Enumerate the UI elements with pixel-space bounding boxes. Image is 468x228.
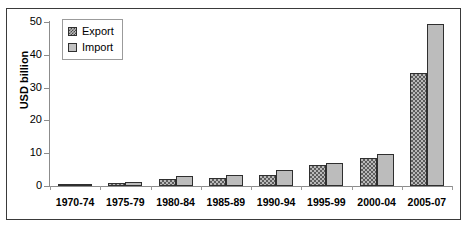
x-category-label: 1985-89 [201, 196, 251, 208]
y-tick-mark [44, 88, 49, 89]
x-tick-mark [402, 186, 403, 190]
bar-import [427, 24, 444, 186]
x-category-label: 1995-99 [301, 196, 351, 208]
legend-item-export: Export [68, 23, 114, 39]
bar-export [159, 179, 176, 186]
x-category-label: 2005-07 [402, 196, 452, 208]
bar-group [159, 22, 193, 186]
x-category-label: 1970-74 [50, 196, 100, 208]
bar-group [410, 22, 444, 186]
bar-import [326, 163, 343, 186]
x-tick-mark [251, 186, 252, 190]
chart-legend: Export Import [62, 19, 123, 60]
legend-label-export: Export [82, 25, 114, 37]
x-tick-mark [100, 186, 101, 190]
x-tick-mark [452, 186, 453, 190]
legend-item-import: Import [68, 39, 114, 55]
legend-label-import: Import [82, 41, 113, 53]
bar-export [410, 73, 427, 186]
bar-export [58, 184, 75, 187]
chart-figure: USD billion 01020304050 1970-741975-7919… [0, 0, 468, 228]
x-category-label: 1990-94 [251, 196, 301, 208]
hatched-swatch-icon [68, 27, 77, 36]
y-tick-label: 0 [16, 179, 42, 191]
y-tick-mark [44, 22, 49, 23]
bar-export [360, 158, 377, 186]
bar-group [309, 22, 343, 186]
x-category-label: 1980-84 [151, 196, 201, 208]
bar-import [176, 176, 193, 186]
x-category-label: 1975-79 [100, 196, 150, 208]
x-tick-mark [352, 186, 353, 190]
y-tick-label: 50 [16, 15, 42, 27]
x-tick-mark [50, 186, 51, 190]
bar-import [75, 184, 92, 187]
x-tick-mark [151, 186, 152, 190]
bar-import [276, 170, 293, 186]
bar-import [226, 175, 243, 186]
bar-export [309, 165, 326, 186]
y-tick-label: 10 [16, 146, 42, 158]
y-tick-label: 30 [16, 81, 42, 93]
y-tick-label: 40 [16, 48, 42, 60]
bar-export [259, 175, 276, 186]
x-category-label: 2000-04 [352, 196, 402, 208]
y-tick-mark [44, 55, 49, 56]
y-tick-mark [44, 120, 49, 121]
bar-export [108, 183, 125, 186]
y-tick-mark [44, 153, 49, 154]
x-tick-mark [201, 186, 202, 190]
bar-group [360, 22, 394, 186]
y-tick-mark [44, 186, 49, 187]
bar-export [209, 178, 226, 186]
bar-group [259, 22, 293, 186]
bar-group [209, 22, 243, 186]
solid-gray-swatch-icon [68, 43, 77, 52]
y-tick-label: 20 [16, 113, 42, 125]
bar-import [125, 182, 142, 186]
bar-import [377, 154, 394, 186]
x-tick-mark [301, 186, 302, 190]
